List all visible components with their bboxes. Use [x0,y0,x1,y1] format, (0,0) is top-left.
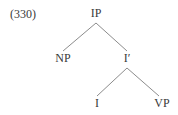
branch-ip-np [63,23,96,51]
branch-ibar-i [97,68,127,96]
tree-node-i: I [95,97,99,110]
tree-node-vp: VP [154,97,169,110]
tree-branches [0,0,178,115]
branch-ibar-vp [127,68,159,96]
branch-ip-ibar [96,23,127,51]
tree-node-np: NP [55,52,70,65]
tree-node-i-bar: I′ [124,52,131,65]
syntax-tree-figure: (330) IP NP I′ I VP [0,0,178,115]
tree-node-ip: IP [91,7,102,20]
